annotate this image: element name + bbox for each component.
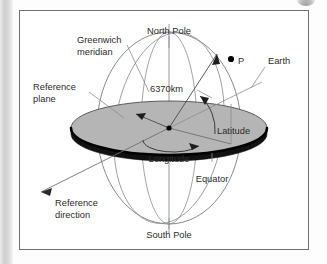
label-latitude: Latitude bbox=[217, 126, 250, 136]
scanned-page: North Pole South Pole Earth P 6370km Lat… bbox=[0, 0, 327, 264]
page-edge-artifact-icon bbox=[296, 0, 316, 6]
label-longitude: Longitude bbox=[149, 154, 190, 164]
label-greenwich-meridian-line1: Greenwich bbox=[77, 35, 121, 45]
label-reference-direction-line1: Reference bbox=[55, 198, 98, 208]
leader-greenwich bbox=[127, 45, 149, 92]
label-greenwich-meridian-line2: meridian bbox=[77, 47, 113, 57]
label-north-pole: North Pole bbox=[147, 26, 191, 36]
leader-earth bbox=[251, 67, 265, 88]
earth-coordinate-diagram: North Pole South Pole Earth P 6370km Lat… bbox=[19, 10, 309, 250]
label-south-pole: South Pole bbox=[146, 230, 192, 240]
leader-radius bbox=[197, 90, 212, 98]
label-earth: Earth bbox=[268, 56, 290, 66]
label-equator: Equator bbox=[196, 174, 229, 184]
page-gutter-shadow bbox=[0, 0, 13, 264]
label-reference-direction-line2: direction bbox=[55, 210, 90, 220]
point-p-dot bbox=[228, 56, 234, 62]
label-radius: 6370km bbox=[150, 84, 183, 94]
label-reference-plane-line1: Reference bbox=[33, 82, 76, 92]
earth-centre-dot bbox=[166, 125, 171, 130]
label-point-p: P bbox=[238, 56, 244, 66]
label-reference-plane-line2: plane bbox=[33, 94, 56, 104]
